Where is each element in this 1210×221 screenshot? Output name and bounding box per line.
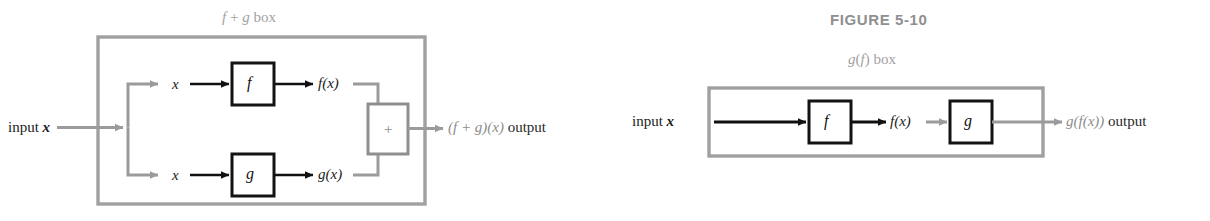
right-box-label-word: box [873,51,896,67]
left-gx-label: g(x) [318,167,342,182]
left-output-label: (f + g)(x) output [448,120,546,135]
right-fx-label: f(x) [890,114,911,129]
right-output-label: g(f(x)) output [1066,114,1146,129]
right-output-expr: g(f(x)) [1066,113,1104,129]
figure-title: FIGURE 5-10 [830,12,927,27]
figure-5-10-diagram: FIGURE 5-10 f + g box input x x f f(x) x… [0,0,1210,221]
left-input-label: input x [8,120,50,135]
right-input-var: x [667,113,675,129]
right-f-box-letter: f [824,113,828,129]
left-adder-plus: + [384,122,392,137]
right-box-label-g: g [848,51,856,67]
left-input-word: input [8,119,39,135]
left-top-branch-x: x [172,77,179,92]
left-bottom-branch-x: x [172,168,179,183]
left-output-expr: (f + g)(x) [448,119,504,135]
left-fx-label: f(x) [318,76,339,91]
right-box-label: g(f) box [848,52,896,67]
left-g-box-letter: g [246,166,254,182]
left-box-label: f + g box [222,10,276,25]
right-f-box [809,101,851,143]
left-splitter-bottom [128,128,158,176]
left-output-word: output [508,119,546,135]
diagram-vector-layer [0,0,1210,221]
right-input-word: input [632,113,663,129]
left-splitter-top [128,84,158,128]
right-output-word: output [1108,113,1146,129]
right-input-label: input x [632,114,674,129]
right-g-box-letter: g [964,113,972,129]
left-f-box-letter: f [247,75,251,91]
left-input-var: x [43,119,51,135]
left-f-box [232,63,274,105]
left-box-label-g: g [242,9,250,25]
left-box-label-word: box [253,9,276,25]
